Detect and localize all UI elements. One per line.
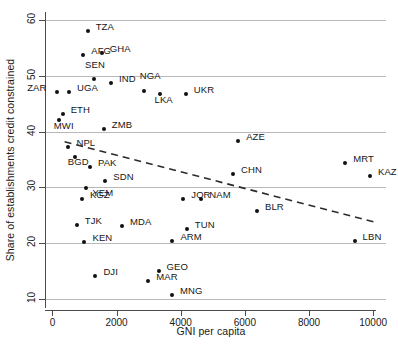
- data-point-label: UGA: [77, 82, 98, 93]
- y-axis-tick-label: 60: [26, 6, 37, 32]
- data-point-label: UKR: [194, 84, 214, 95]
- data-point: [67, 90, 71, 94]
- x-axis-tick: [373, 310, 374, 316]
- data-point-label: ARM: [180, 231, 201, 242]
- data-point: [75, 223, 79, 227]
- data-point-label: LKA: [155, 94, 173, 105]
- y-axis-tick: [39, 187, 45, 188]
- data-point-label: ETH: [71, 104, 90, 115]
- gridline-y: [46, 243, 386, 244]
- data-point-label: SEN: [85, 59, 105, 70]
- data-point-label: KGZ: [90, 189, 110, 200]
- y-axis-tick: [39, 299, 45, 300]
- data-point-label: ZMB: [112, 119, 132, 130]
- x-axis-tick: [245, 310, 246, 316]
- data-point-label: MDA: [130, 216, 151, 227]
- data-point-label: IND: [119, 73, 136, 84]
- data-point-label: DJI: [103, 266, 118, 277]
- data-point-label: MWI: [54, 120, 74, 131]
- x-axis-tick: [117, 310, 118, 316]
- x-axis-line: [45, 310, 376, 311]
- data-point: [353, 239, 357, 243]
- y-axis-tick: [39, 243, 45, 244]
- y-axis-tick: [39, 132, 45, 133]
- data-point: [142, 89, 146, 93]
- data-point-label: LBN: [363, 231, 382, 242]
- data-point: [231, 172, 235, 176]
- data-point-label: BLR: [265, 201, 284, 212]
- data-point: [255, 209, 259, 213]
- y-axis-tick-label: 10: [26, 284, 37, 310]
- data-point-label: TUN: [195, 219, 215, 230]
- data-point-label: TZA: [96, 21, 114, 32]
- y-axis-tick-label: 40: [26, 117, 37, 143]
- x-axis-tick-label: 2000: [92, 317, 142, 328]
- data-point-label: KAZ: [378, 166, 397, 177]
- data-point-label: TJK: [85, 215, 102, 226]
- x-axis-tick-label: 8000: [284, 317, 334, 328]
- data-point: [100, 51, 104, 55]
- y-axis-tick: [39, 76, 45, 77]
- data-point-label: NPL: [76, 137, 95, 148]
- data-point-label: MNG: [180, 285, 202, 296]
- y-axis-tick-label: 30: [26, 173, 37, 199]
- data-point-label: NGA: [140, 70, 161, 81]
- data-point-label: SDN: [113, 171, 133, 182]
- data-point: [236, 139, 240, 143]
- data-point: [109, 81, 113, 85]
- data-point-label: ZAR: [27, 82, 46, 93]
- gridline-y: [46, 299, 386, 300]
- x-axis-tick: [181, 310, 182, 316]
- data-point-label: NAM: [209, 189, 230, 200]
- data-point: [88, 165, 92, 169]
- y-axis-tick-label: 20: [26, 228, 37, 254]
- data-point: [61, 112, 65, 116]
- data-point: [184, 92, 188, 96]
- gridline-y: [46, 76, 386, 77]
- data-point-label: JOR: [191, 189, 210, 200]
- data-point-label: GHA: [110, 43, 131, 54]
- y-axis-title: Share of establishments credit constrain…: [2, 10, 18, 310]
- data-point: [80, 197, 84, 201]
- x-axis-tick-label: 4000: [156, 317, 206, 328]
- data-point-label: AZE: [246, 131, 265, 142]
- data-point-label: KEN: [92, 232, 112, 243]
- x-axis-tick-label: 10000: [348, 317, 398, 328]
- x-axis-tick: [52, 310, 53, 316]
- y-axis-tick: [39, 20, 45, 21]
- x-axis-tick-label: 0: [27, 317, 77, 328]
- gridline-y: [46, 132, 386, 133]
- data-point-label: MAR: [156, 271, 177, 282]
- data-point-label: BGD: [68, 156, 89, 167]
- data-point-label: MRT: [353, 153, 374, 164]
- x-axis-tick: [309, 310, 310, 316]
- data-point-label: CHN: [241, 164, 262, 175]
- x-axis-tick-label: 6000: [220, 317, 270, 328]
- data-point-label: PAK: [98, 157, 117, 168]
- data-point: [55, 90, 59, 94]
